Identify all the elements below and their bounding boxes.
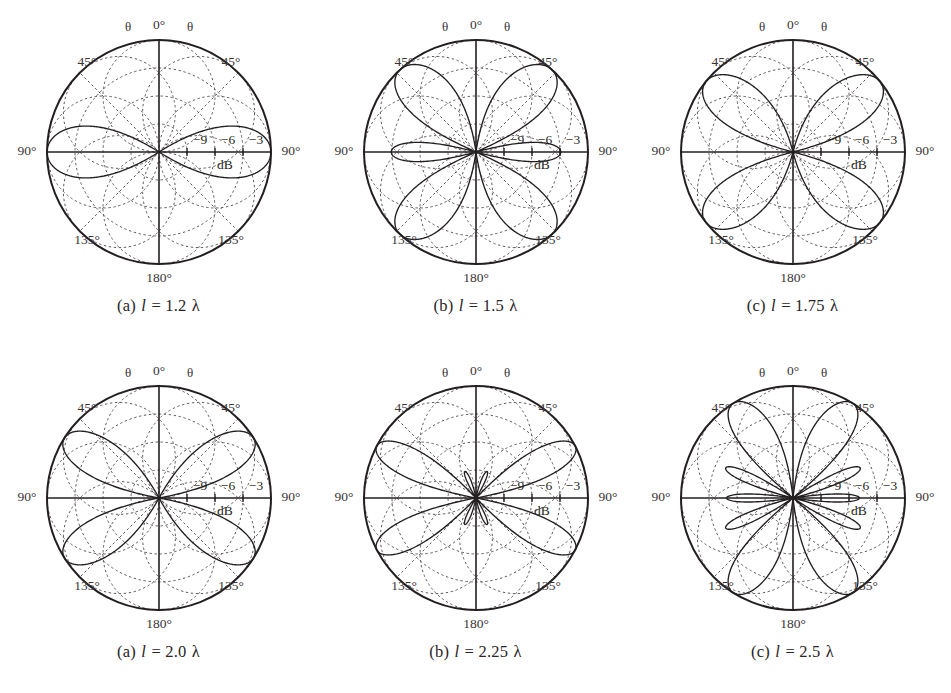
angle-label-0: 0° [469,363,481,378]
angle-label-135-right: 135° [218,232,244,247]
angle-label-135-left: 135° [391,578,417,593]
db-ring-label-3: −3 [882,132,897,147]
db-unit-label: dB [534,157,550,172]
theta-symbol-right: θ [186,365,192,380]
db-ring-label-3: −3 [248,132,263,147]
caption-equals: = [469,296,479,315]
polar-plot-panel: 0°45°45°90°90°135°135°180°θθ−9−6−3dB(a) … [0,0,317,346]
theta-symbol-left: θ [758,365,764,380]
angle-label-180: 180° [146,270,172,285]
theta-symbol-left: θ [124,19,130,34]
angle-label-45-right: 45° [538,54,557,69]
caption-index: (a) [117,642,136,661]
caption-equals: = [785,642,795,661]
caption-index: (a) [117,296,136,315]
caption-variable: l [770,296,777,315]
angle-label-90-left: 90° [334,143,353,158]
caption-equals: = [781,296,791,315]
angle-label-45-left: 45° [394,54,413,69]
caption-value: 2.0 [165,642,186,661]
db-ring-label-9: −9 [192,132,207,147]
angle-label-90-right: 90° [281,489,300,504]
angle-label-45-left: 45° [711,54,730,69]
db-ring-label-6: −6 [537,478,552,493]
angle-label-90-left: 90° [17,143,36,158]
angle-label-0: 0° [152,363,164,378]
theta-symbol-right: θ [503,365,509,380]
angle-label-180: 180° [146,616,172,631]
polar-plot-svg: 0°45°45°90°90°135°135°180°θθ−9−6−3dB [9,0,309,296]
angle-label-90-left: 90° [334,489,353,504]
angle-label-45-right: 45° [855,54,874,69]
db-ring-label-3: −3 [882,478,897,493]
angle-label-180: 180° [780,270,806,285]
angle-label-45-right: 45° [221,54,240,69]
polar-plot-panel: 0°45°45°90°90°135°135°180°θθ−9−6−3dB(c) … [634,0,951,346]
angle-label-0: 0° [152,17,164,32]
db-ring-label-6: −6 [537,132,552,147]
figure-grid: 0°45°45°90°90°135°135°180°θθ−9−6−3dB(a) … [0,0,951,693]
polar-plot: 0°45°45°90°90°135°135°180°θθ−9−6−3dB [326,346,626,642]
angle-label-45-right: 45° [855,400,874,415]
caption-index: (c) [747,296,766,315]
polar-plot-svg: 0°45°45°90°90°135°135°180°θθ−9−6−3dB [326,346,626,642]
caption-index: (c) [751,642,770,661]
caption-value: 1.2 [165,296,186,315]
angle-label-90-left: 90° [651,143,670,158]
db-ring-label-9: −9 [192,478,207,493]
polar-plot-panel: 0°45°45°90°90°135°135°180°θθ−9−6−3dB(c) … [634,346,951,693]
caption-index: (b) [434,296,454,315]
caption-equals: = [151,296,161,315]
db-unit-label: dB [851,503,867,518]
db-ring-label-6: −6 [854,132,869,147]
angle-label-45-left: 45° [77,400,96,415]
caption-variable: l [458,296,465,315]
polar-plot-panel: 0°45°45°90°90°135°135°180°θθ−9−6−3dB(a) … [0,346,317,693]
db-ring-label-6: −6 [220,478,235,493]
angle-label-135-left: 135° [708,232,734,247]
db-ring-label-9: −9 [509,132,524,147]
theta-symbol-left: θ [441,19,447,34]
angle-label-90-right: 90° [598,489,617,504]
angle-label-135-right: 135° [852,232,878,247]
angle-label-135-right: 135° [852,578,878,593]
db-ring-label-9: −9 [826,478,841,493]
caption-variable: l [774,642,781,661]
db-ring-label-9: −9 [826,132,841,147]
caption-lambda: λ [825,642,834,661]
angle-label-135-right: 135° [535,578,561,593]
angle-label-180: 180° [463,616,489,631]
db-ring-label-3: −3 [565,132,580,147]
caption-value: 2.25 [478,642,508,661]
caption-lambda: λ [191,642,200,661]
angle-label-180: 180° [780,616,806,631]
polar-plot: 0°45°45°90°90°135°135°180°θθ−9−6−3dB [326,0,626,296]
angle-label-90-right: 90° [915,489,934,504]
panel-caption: (b) l = 1.5 λ [434,298,518,315]
angle-label-135-right: 135° [218,578,244,593]
angle-label-45-left: 45° [711,400,730,415]
angle-label-135-left: 135° [708,578,734,593]
db-ring-label-6: −6 [854,478,869,493]
theta-symbol-right: θ [503,19,509,34]
panel-caption: (a) l = 1.2 λ [117,298,200,315]
caption-index: (b) [429,642,449,661]
angle-label-135-right: 135° [535,232,561,247]
angle-label-0: 0° [469,17,481,32]
angle-label-135-left: 135° [391,232,417,247]
theta-symbol-left: θ [441,365,447,380]
caption-variable: l [140,642,147,661]
angle-label-90-left: 90° [17,489,36,504]
angle-label-0: 0° [786,363,798,378]
theta-symbol-right: θ [186,19,192,34]
db-ring-label-9: −9 [509,478,524,493]
theta-symbol-left: θ [124,365,130,380]
angle-label-45-right: 45° [538,400,557,415]
angle-label-90-left: 90° [651,489,670,504]
angle-label-90-right: 90° [915,143,934,158]
caption-value: 1.5 [483,296,504,315]
caption-value: 1.75 [795,296,825,315]
theta-symbol-right: θ [820,19,826,34]
angle-label-45-left: 45° [394,400,413,415]
polar-plot-panel: 0°45°45°90°90°135°135°180°θθ−9−6−3dB(b) … [317,346,634,693]
